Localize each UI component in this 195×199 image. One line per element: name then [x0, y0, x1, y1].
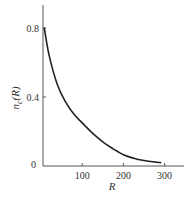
x-tick-label: 200 [116, 170, 131, 181]
y-tick-label: 0 [31, 159, 36, 170]
chart: 100200300 00.40.8 R nc(R) [0, 0, 195, 199]
y-axis-label-tail: (R) [9, 86, 22, 100]
y-tick-label: 0.8 [27, 23, 40, 34]
y-axis-label: nc(R) [9, 86, 24, 109]
y-tick-label: 0.4 [27, 92, 40, 103]
x-axis-label: R [108, 180, 116, 192]
data-line [44, 28, 160, 163]
x-tick-label: 300 [157, 170, 172, 181]
axes [43, 5, 184, 166]
x-tick-label: 100 [75, 170, 90, 181]
